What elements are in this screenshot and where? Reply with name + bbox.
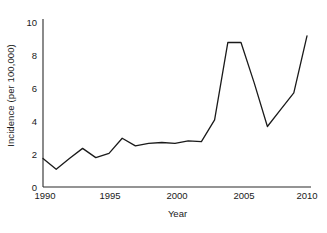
x-tick-label: 1995 xyxy=(99,191,120,201)
line-chart: Incidence (per 100,000) 10 8 6 4 2 0 199… xyxy=(0,0,327,233)
x-tick-label: 2010 xyxy=(296,191,317,201)
x-tick-label: 1990 xyxy=(34,191,55,201)
x-tick-label: 2005 xyxy=(233,191,254,201)
x-axis-tick-labels: 1990 1995 2000 2005 2010 xyxy=(0,191,327,205)
x-axis-title-text: Year xyxy=(140,208,187,219)
data-series-line xyxy=(43,36,307,170)
x-axis-title: Year xyxy=(0,208,327,219)
x-tick-label: 2000 xyxy=(166,191,187,201)
